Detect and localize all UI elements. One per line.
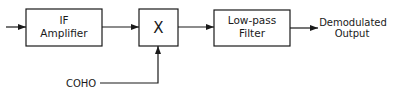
if-amplifier-label-line1: IF bbox=[59, 14, 68, 26]
mixer-symbol: X bbox=[153, 19, 163, 37]
mixer-block: X bbox=[139, 9, 178, 46]
block-diagram: IF Amplifier X Low-pass Filter Demodulat… bbox=[0, 0, 397, 96]
low-pass-filter-block: Low-pass Filter bbox=[214, 10, 290, 46]
output-label-line1: Demodulated bbox=[319, 17, 387, 28]
coho-to-mixer-arrow bbox=[100, 46, 158, 83]
lpf-label-line2: Filter bbox=[239, 27, 266, 39]
coho-label: COHO bbox=[66, 78, 96, 89]
if-amplifier-block: IF Amplifier bbox=[26, 9, 102, 46]
output-label-line2: Output bbox=[335, 28, 370, 39]
lpf-label-line1: Low-pass bbox=[228, 14, 277, 26]
if-amplifier-label-line2: Amplifier bbox=[40, 27, 88, 39]
